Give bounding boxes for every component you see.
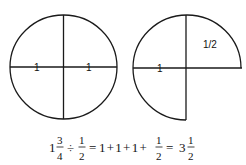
eq-den3: 2 (156, 150, 162, 162)
eq-terms: 1 + 1 + 1 + (99, 140, 146, 155)
eq-num4: 1 (188, 134, 194, 146)
right-circle-label-1: 1 (157, 63, 163, 74)
eq-num3: 1 (156, 134, 162, 146)
equation: 1 3 4 ÷ 1 2 = 1 + 1 + 1 + 1 2 = 3 1 2 (49, 134, 195, 162)
eq-den2: 2 (79, 150, 85, 162)
eq-den1: 4 (57, 150, 63, 162)
fraction-diagram: 1 1 1 1/2 1 3 4 ÷ 1 2 = 1 + 1 + 1 + 1 2 … (0, 0, 246, 165)
eq-num1: 3 (57, 134, 63, 146)
eq-div: ÷ (67, 140, 74, 155)
eq-equals-1: = (89, 140, 96, 155)
eq-whole: 1 (49, 140, 56, 155)
eq-den4: 2 (188, 150, 194, 162)
right-circle-label-half: 1/2 (203, 39, 217, 50)
left-circle: 1 1 (10, 15, 117, 119)
left-circle-label-1: 1 (34, 62, 40, 73)
eq-result-whole: 3 (179, 140, 186, 155)
eq-equals-2: = (166, 140, 173, 155)
right-three-quarter-circle: 1 1/2 (133, 15, 242, 120)
left-circle-label-2: 1 (86, 62, 92, 73)
eq-num2: 1 (79, 134, 85, 146)
